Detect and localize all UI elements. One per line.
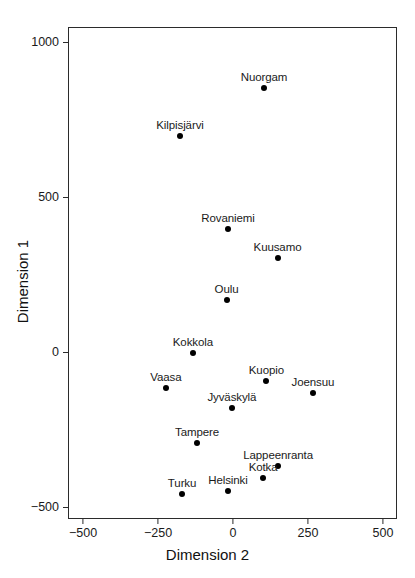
data-point-nuorgam xyxy=(261,85,267,91)
data-point-helsinki xyxy=(225,488,231,494)
data-point-kilpisj-rvi xyxy=(177,133,183,139)
y-tick-0 xyxy=(63,507,68,508)
data-points-layer: NuorgamKilpisjärviRovaniemiKuusamoOuluKo… xyxy=(69,28,396,518)
data-point-turku xyxy=(179,491,185,497)
data-label-kokkola: Kokkola xyxy=(173,336,213,348)
y-tick-label-0: −500 xyxy=(31,500,59,514)
data-point-kuusamo xyxy=(275,255,281,261)
x-tick-4 xyxy=(382,519,383,524)
data-label-joensuu: Joensuu xyxy=(292,376,335,388)
x-tick-0 xyxy=(82,519,83,524)
x-tick-label-3: 250 xyxy=(298,526,319,540)
x-tick-2 xyxy=(232,519,233,524)
x-tick-label-2: 0 xyxy=(230,526,237,540)
data-label-turku: Turku xyxy=(168,477,196,489)
x-tick-3 xyxy=(307,519,308,524)
y-tick-3 xyxy=(63,42,68,43)
data-point-rovaniemi xyxy=(225,226,231,232)
data-point-tampere xyxy=(194,440,200,446)
data-label-tampere: Tampere xyxy=(175,426,219,438)
data-label-kilpisj-rvi: Kilpisjärvi xyxy=(156,119,203,131)
data-point-kokkola xyxy=(190,350,196,356)
data-point-joensuu xyxy=(310,390,316,396)
x-axis-label: Dimension 2 xyxy=(0,546,415,563)
y-tick-label-3: 1000 xyxy=(31,35,59,49)
x-tick-label-4: 500 xyxy=(373,526,394,540)
data-point-kuopio xyxy=(263,378,269,384)
plot-frame: NuorgamKilpisjärviRovaniemiKuusamoOuluKo… xyxy=(68,27,397,519)
y-tick-label-2: 500 xyxy=(38,190,59,204)
data-label-rovaniemi: Rovaniemi xyxy=(201,212,254,224)
data-label-kuopio: Kuopio xyxy=(249,364,284,376)
data-label-helsinki: Helsinki xyxy=(208,474,247,486)
data-point-jyv-skyl- xyxy=(229,405,235,411)
data-point-kotka xyxy=(260,475,266,481)
scatter-plot-figure: NuorgamKilpisjärviRovaniemiKuusamoOuluKo… xyxy=(0,0,415,578)
data-label-lappeenranta: Lappeenranta xyxy=(243,449,313,461)
y-tick-2 xyxy=(63,197,68,198)
data-label-jyv-skyl-: Jyväskylä xyxy=(207,391,256,403)
data-label-kotka: Kotka xyxy=(249,461,278,473)
y-axis-label: Dimension 1 xyxy=(14,172,31,392)
x-tick-label-0: −500 xyxy=(69,526,97,540)
data-point-oulu xyxy=(224,297,230,303)
data-label-nuorgam: Nuorgam xyxy=(241,71,288,83)
y-tick-1 xyxy=(63,352,68,353)
x-tick-label-1: −250 xyxy=(144,526,172,540)
data-point-vaasa xyxy=(163,385,169,391)
data-label-kuusamo: Kuusamo xyxy=(254,241,302,253)
x-tick-1 xyxy=(157,519,158,524)
y-tick-label-1: 0 xyxy=(52,345,59,359)
data-label-oulu: Oulu xyxy=(215,283,239,295)
data-label-vaasa: Vaasa xyxy=(150,371,181,383)
